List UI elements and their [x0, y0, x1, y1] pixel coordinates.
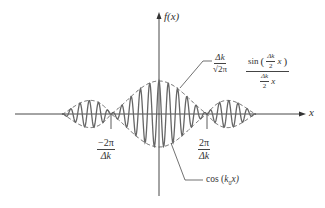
tick-label-right: 2π Δk [198, 137, 210, 161]
tick-label-left: −2π Δk [97, 137, 115, 161]
envelope-coefficient-label: Δk √2π [213, 52, 227, 74]
wave-packet-plot [0, 0, 325, 208]
carrier-label: cos (k0x) [206, 174, 239, 186]
x-axis-label: x [309, 106, 314, 118]
y-axis-label: f(x) [164, 10, 179, 22]
envelope-function-label: sin ( Δk 2 x ) Δk 2 x [246, 53, 289, 90]
envelope-leader-line [180, 61, 212, 88]
y-axis-arrow-icon [157, 12, 162, 19]
x-axis-arrow-icon [299, 112, 306, 117]
